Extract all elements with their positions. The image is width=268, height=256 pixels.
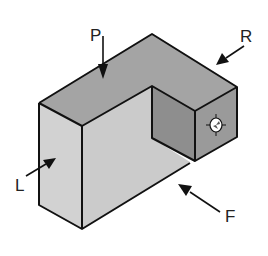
label-l: L — [15, 176, 24, 195]
isometric-diagram: P R L F — [0, 0, 268, 256]
arrow-f: F — [178, 184, 235, 226]
label-f: F — [225, 207, 235, 226]
label-r: R — [240, 27, 252, 46]
arrow-r: R — [216, 27, 252, 65]
label-p: P — [90, 26, 101, 45]
